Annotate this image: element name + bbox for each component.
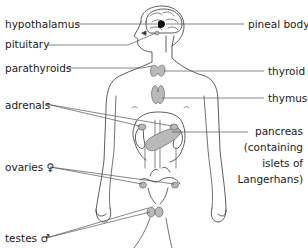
head-outline	[141, 6, 226, 216]
label-pituitary: pituitary	[5, 38, 49, 50]
left-ovary	[140, 182, 147, 188]
label-parathyroids: parathyroids	[5, 62, 71, 74]
uterus	[140, 167, 180, 184]
label-pancreas-line2: (containing	[244, 141, 303, 153]
leader-testes-a	[46, 212, 150, 238]
label-adrenals: adrenals	[5, 99, 50, 111]
label-ovaries: ovaries ♀	[5, 161, 54, 173]
right-adrenal	[170, 124, 178, 130]
leader-parathyroids	[66, 66, 152, 68]
leader-adrenals-left	[46, 104, 140, 126]
leader-testes-b	[46, 208, 148, 238]
label-hypothalamus: hypothalamus	[5, 18, 80, 30]
right-testis	[155, 207, 163, 217]
left-kidney	[135, 128, 144, 149]
pancreas-gland	[146, 127, 181, 150]
label-thymus: thymus	[268, 92, 307, 104]
label-pancreas-line3: islets of	[262, 157, 303, 169]
left-testis	[147, 207, 155, 217]
left-adrenal	[138, 124, 146, 130]
leader-ovaries-left	[50, 167, 142, 184]
leader-pituitary	[48, 33, 156, 45]
right-ovary	[172, 182, 179, 188]
label-thyroid: thyroid	[268, 65, 305, 77]
label-pineal-body: pineal body	[248, 18, 308, 30]
pineal-gland	[158, 20, 165, 28]
label-pancreas-line4: Langerhans)	[237, 173, 303, 185]
thyroid-gland	[151, 65, 166, 76]
label-testes: testes ♂	[5, 232, 50, 244]
label-pancreas-line1: pancreas	[255, 125, 303, 137]
endocrine-diagram: hypothalamus pituitary parathyroids adre…	[0, 0, 308, 248]
leader-adrenals-right	[46, 104, 172, 126]
thymus-gland	[152, 85, 165, 104]
